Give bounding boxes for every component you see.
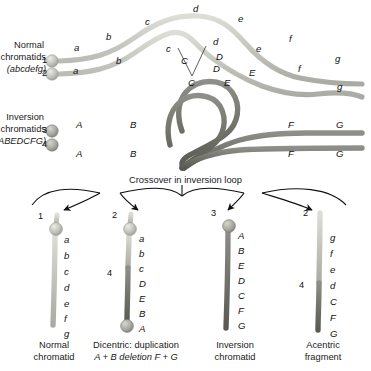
product-2-caption-line2: A + B deletion F + G: [76, 352, 196, 362]
product-1-gene-c: c: [64, 267, 69, 278]
centromere-chromatid-3: [46, 125, 58, 137]
centromere-product-1: [50, 223, 63, 236]
product-3-caption-line1: Inversion: [190, 340, 280, 350]
product-4-number: 2: [303, 208, 308, 218]
product-4-gene-F: F: [330, 313, 336, 324]
gene-label-inv4-F: F: [288, 149, 294, 160]
product-2-second-number: 4: [107, 268, 112, 278]
product-3-gene-C: C: [238, 291, 245, 302]
gene-label-inv4-G: G: [336, 149, 343, 160]
product-2-gene-c: c: [139, 264, 144, 275]
normal-chromatid-2: [59, 32, 362, 97]
gene-label-loop-C-upper: C: [181, 56, 188, 67]
product-1-gene-a: a: [64, 235, 69, 246]
inversion-chromatids-label-line2: chromatids: [0, 124, 46, 134]
gene-label-normal1-c: c: [145, 17, 150, 28]
inversion-chromatids-label-line3: (ABEDCFG): [0, 136, 46, 146]
normal-chromatids-label-line2: chromatids: [0, 52, 46, 62]
chromatid-number-3: 3: [42, 125, 47, 135]
chromatid-number-1: 1: [42, 55, 47, 65]
product-4-gene-G: G: [330, 329, 337, 340]
product-chromatid-4-acentric: [318, 213, 320, 330]
product-3-gene-E: E: [238, 261, 244, 272]
gene-label-normal1-e: e: [238, 14, 243, 25]
normal-chromatid-1: [59, 16, 362, 84]
product-1-gene-d: d: [64, 283, 69, 294]
gene-label-normal1-d: d: [193, 4, 198, 15]
product-4-caption-line1: Acentric: [280, 340, 366, 350]
gene-label-normal2-g: g: [337, 82, 342, 93]
leader-line-d: [192, 46, 206, 76]
gene-label-normal2-d: d: [213, 37, 218, 48]
product-chromatid-2-dicentric: [121, 214, 137, 340]
gene-label-normal1-b: b: [106, 32, 111, 43]
centromere-chromatid-2: [46, 68, 58, 80]
gene-label-inv-D-outer: D: [213, 64, 220, 75]
chromatid-number-4: 4: [42, 139, 47, 149]
gene-label-inv-C-inner: C: [188, 78, 195, 89]
product-3-gene-D: D: [238, 276, 245, 287]
product-4-gene-f: f: [330, 249, 333, 260]
product-4-gene-e: e: [330, 265, 335, 276]
product-3-caption-line2: chromatid: [190, 352, 280, 362]
product-2-gene-A: A: [139, 324, 145, 335]
gene-label-inv3-B: B: [130, 120, 136, 131]
gene-label-inv-E-inner: E: [224, 78, 230, 89]
product-1-gene-g: g: [64, 329, 69, 340]
chromatid-number-2: 2: [42, 68, 47, 78]
product-2-gene-b: b: [139, 249, 144, 260]
product-4-gene-d: d: [330, 281, 335, 292]
gene-label-inv4-B: B: [130, 149, 136, 160]
product-3-gene-F: F: [238, 306, 244, 317]
gene-label-normal2-e: e: [256, 44, 261, 55]
product-3-gene-A: A: [238, 231, 244, 242]
gene-label-inv3-G: G: [336, 120, 343, 131]
gene-label-normal2-f: f: [298, 64, 301, 75]
centromere-product-2-top: [124, 223, 137, 236]
distribution-arrows: [64, 193, 312, 210]
product-1-gene-f: f: [64, 314, 67, 325]
product-chromatid-3-inversion: [223, 212, 236, 328]
product-2-caption-line1: Dicentric: duplication: [76, 340, 196, 350]
centromere-chromatid-4: [46, 139, 58, 151]
gene-label-inv3-F: F: [288, 120, 294, 131]
product-1-number: 1: [38, 211, 43, 221]
gene-label-normal2-c: c: [166, 44, 171, 55]
product-2-gene-E: E: [139, 294, 145, 305]
normal-chromatids-label-line1: Normal: [2, 40, 44, 50]
product-chromatid-1: [50, 215, 63, 325]
gene-label-inv4-A: A: [76, 149, 82, 160]
product-4-second-number: 4: [299, 280, 304, 290]
product-2-gene-B: B: [139, 309, 145, 320]
crossover-caption: Crossover in inversion loop: [0, 175, 371, 186]
gene-label-inv-E-outer: E: [249, 68, 255, 79]
product-2-gene-a: a: [139, 234, 144, 245]
gene-label-normal2-b: b: [116, 56, 121, 67]
gene-label-loop-D-upper: D: [216, 52, 223, 63]
product-3-gene-B: B: [238, 246, 244, 257]
inversion-chromatids-label-line1: Inversion: [2, 112, 44, 122]
product-4-caption-line2: fragment: [280, 352, 366, 362]
figure-canvas: Normal chromatids (abcdefg) Inversion ch…: [0, 0, 371, 371]
gene-label-normal2-a: a: [73, 66, 78, 77]
product-1-gene-e: e: [64, 299, 69, 310]
product-1-gene-b: b: [64, 251, 69, 262]
gene-label-normal1-g: g: [335, 54, 340, 65]
product-2-gene-D: D: [139, 279, 146, 290]
distribution-brace: [32, 185, 346, 205]
gene-label-normal1-f: f: [289, 34, 292, 45]
product-3-gene-G: G: [238, 321, 245, 332]
product-3-number: 3: [211, 208, 216, 218]
gene-label-normal1-a: a: [74, 43, 79, 54]
product-2-number: 2: [112, 210, 117, 220]
product-4-gene-g: g: [330, 233, 335, 244]
centromere-product-3: [223, 220, 236, 233]
normal-chromatids-label-line3: (abcdefg): [0, 64, 46, 74]
product-4-gene-C: C: [330, 297, 337, 308]
gene-label-inv3-A: A: [76, 120, 82, 131]
centromere-chromatid-1: [46, 55, 58, 67]
